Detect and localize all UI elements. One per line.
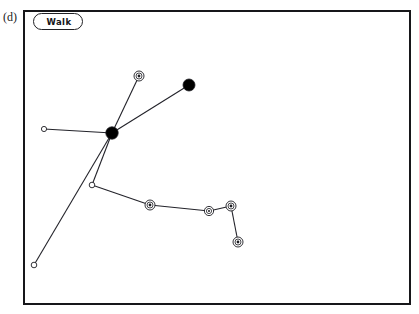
bottom-left-tip-node[interactable]: [31, 262, 37, 268]
graph-canvas: [0, 0, 419, 314]
chain-ring-node-3[interactable]: [226, 201, 236, 211]
edge-hub-left-tip: [44, 129, 112, 133]
edge-hub-bottom-left: [34, 133, 112, 265]
ring-node-center-dot: [208, 210, 210, 212]
open-node-circle: [31, 262, 37, 268]
edge-junction-chain-1: [92, 185, 150, 205]
edge-hub-junction: [92, 133, 112, 185]
solid-node-disc: [106, 127, 118, 139]
legend-label: Walk: [34, 14, 84, 31]
left-tip-node[interactable]: [41, 126, 46, 131]
hub-node[interactable]: [106, 127, 118, 139]
edge-layer: [34, 76, 238, 265]
legend-badge[interactable]: Walk: [33, 13, 83, 30]
ring-node-center-dot: [138, 75, 141, 78]
edge-chain-3-chain-4: [231, 206, 238, 242]
ring-node-center-dot: [230, 205, 233, 208]
open-node-circle: [89, 182, 95, 188]
top-ring-node[interactable]: [134, 71, 144, 81]
upper-right-node[interactable]: [183, 79, 195, 91]
node-layer: [31, 71, 243, 268]
lower-junction-node[interactable]: [89, 182, 95, 188]
edge-chain-1-chain-2: [150, 205, 209, 211]
ring-node-center-dot: [237, 241, 240, 244]
chain-ring-node-2[interactable]: [204, 206, 213, 215]
chain-ring-node-1[interactable]: [145, 200, 155, 210]
screenshot-root: (d) Walk: [0, 0, 419, 314]
ring-node-center-dot: [149, 204, 152, 207]
solid-node-disc: [183, 79, 195, 91]
chain-ring-node-4[interactable]: [233, 237, 243, 247]
open-node-circle: [41, 126, 46, 131]
